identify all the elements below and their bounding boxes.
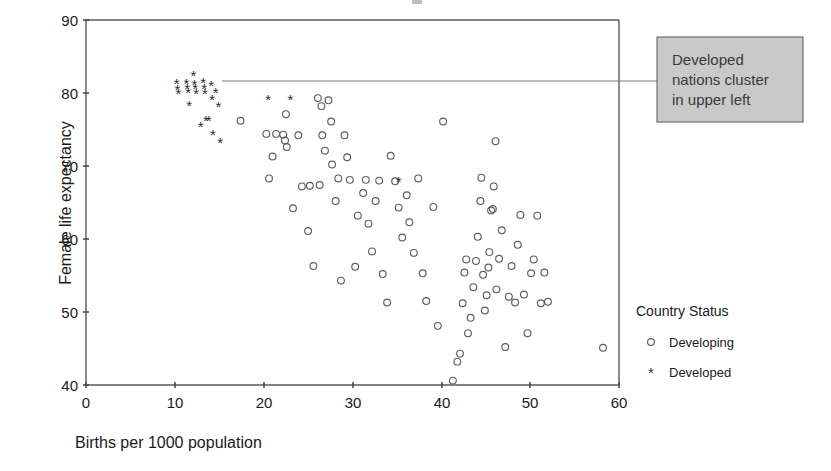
data-point-developing (403, 192, 410, 199)
data-point-developing (498, 227, 505, 234)
x-axis-title: Births per 1000 population (75, 434, 262, 451)
data-point-developing (419, 270, 426, 277)
data-point-developing (470, 284, 477, 291)
data-point-developing (387, 152, 394, 159)
data-point-developing (316, 182, 323, 189)
data-point-developing (457, 350, 464, 357)
data-point-developing (449, 377, 456, 384)
data-point-developing (537, 300, 544, 307)
data-point-developing (314, 95, 321, 102)
data-point-developing (341, 132, 348, 139)
legend-entry-developing[interactable]: Developing (648, 335, 734, 350)
legend-title: Country Status (636, 303, 729, 319)
data-point-developing (384, 299, 391, 306)
data-point-developing (318, 103, 325, 110)
y-tick-label-40: 40 (61, 377, 78, 394)
data-point-developing (454, 358, 461, 365)
data-point-developing (362, 176, 369, 183)
data-point-developing (490, 183, 497, 190)
data-point-developed: * (202, 85, 208, 102)
data-point-developing (415, 175, 422, 182)
data-point-developing (541, 269, 548, 276)
data-point-developing (430, 203, 437, 210)
legend-entry-developed[interactable]: * Developed (648, 364, 731, 381)
data-point-developing (365, 220, 372, 227)
data-point-developing (473, 258, 480, 265)
data-point-developing (514, 241, 521, 248)
annotation-line-3: in upper left (672, 91, 751, 108)
data-point-developing (338, 277, 345, 284)
data-point-developed: * (186, 97, 192, 114)
data-point-developing (379, 271, 386, 278)
data-point-developing (237, 117, 244, 124)
data-point-developed: * (217, 134, 223, 151)
data-point-developing (512, 299, 519, 306)
data-point-developing (282, 111, 289, 118)
scatter-chart: 90 80 70 60 50 40 0 10 20 30 40 50 60 Fe… (0, 0, 831, 471)
legend-label-developed: Developed (669, 365, 731, 380)
data-point-developing (459, 300, 466, 307)
data-point-developing (335, 175, 342, 182)
data-point-developed: * (215, 98, 221, 115)
data-point-developing (266, 175, 273, 182)
data-point-developing (369, 248, 376, 255)
data-point-developing (406, 219, 413, 226)
data-point-developing (376, 177, 383, 184)
data-point-developing (440, 118, 447, 125)
data-point-developing (354, 212, 361, 219)
data-markers-layer: ************************** (174, 67, 607, 384)
data-point-developing (395, 204, 402, 211)
data-point-developing (483, 292, 490, 299)
data-point-developing (298, 183, 305, 190)
data-point-developing (319, 132, 326, 139)
x-tick-label-60: 60 (611, 394, 628, 411)
data-point-developing (344, 154, 351, 161)
data-point-developing (290, 205, 297, 212)
annotation-line-1: Developed (672, 51, 744, 68)
series-developed: ************************** (174, 67, 402, 190)
data-point-developing (346, 176, 353, 183)
data-point-developing (325, 97, 332, 104)
data-point-developing (360, 190, 367, 197)
legend-label-developing: Developing (669, 335, 734, 350)
data-point-developing (263, 130, 270, 137)
x-tick-label-30: 30 (345, 394, 362, 411)
data-point-developed: * (265, 91, 271, 108)
x-axis-ticks: 0 10 20 30 40 50 60 (82, 382, 628, 411)
data-point-developed: * (287, 91, 293, 108)
y-tick-label-50: 50 (61, 304, 78, 321)
x-tick-label-0: 0 (82, 394, 90, 411)
data-point-developed: * (210, 126, 216, 143)
annotation-callout[interactable]: Developed nations cluster in upper left (657, 37, 803, 122)
data-point-developing (306, 182, 313, 189)
data-point-developed: * (175, 85, 181, 102)
data-point-developing (481, 307, 488, 314)
data-point-developing (485, 264, 492, 271)
axis-frame (86, 20, 619, 385)
y-tick-label-80: 80 (61, 85, 78, 102)
data-point-developing (478, 174, 485, 181)
data-point-developing (474, 233, 481, 240)
data-point-developing (399, 234, 406, 241)
data-point-developing (295, 132, 302, 139)
plot-canvas: 90 80 70 60 50 40 0 10 20 30 40 50 60 Fe… (0, 0, 831, 471)
data-point-developing (410, 249, 417, 256)
data-point-developing (502, 344, 509, 351)
data-point-developing (600, 344, 607, 351)
data-point-developing (269, 153, 276, 160)
data-point-developing (467, 314, 474, 321)
data-point-developing (329, 161, 336, 168)
data-point-developing (545, 298, 552, 305)
data-point-developing (328, 118, 335, 125)
legend: Country Status Developing * Developed (636, 303, 734, 381)
data-point-developing (508, 263, 515, 270)
data-point-developing (322, 147, 329, 154)
data-point-developing (530, 256, 537, 263)
data-point-developing (534, 212, 541, 219)
data-point-developing (305, 228, 312, 235)
data-point-developing (273, 130, 280, 137)
data-point-developing (310, 263, 317, 270)
data-point-developing (524, 330, 531, 337)
data-point-developing (517, 212, 524, 219)
data-point-developing (372, 198, 379, 205)
